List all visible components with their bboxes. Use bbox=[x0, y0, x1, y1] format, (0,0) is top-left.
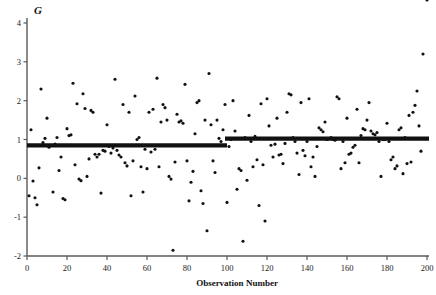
data-point bbox=[93, 153, 96, 156]
data-point bbox=[267, 124, 270, 127]
data-point bbox=[415, 89, 418, 92]
data-point bbox=[245, 179, 248, 182]
data-point bbox=[225, 201, 228, 204]
data-point bbox=[207, 72, 210, 75]
data-point bbox=[411, 111, 414, 114]
data-point bbox=[189, 181, 192, 184]
x-axis-tick-label: 40 bbox=[103, 263, 112, 273]
data-point bbox=[241, 240, 244, 243]
data-point bbox=[413, 104, 416, 107]
data-point bbox=[313, 175, 316, 178]
data-point bbox=[349, 152, 352, 155]
x-axis-tick-label: 0 bbox=[25, 263, 29, 273]
data-point bbox=[257, 204, 260, 207]
data-point bbox=[121, 103, 124, 106]
data-point bbox=[119, 155, 122, 158]
x-axis-tick-label: 140 bbox=[301, 263, 314, 273]
y-axis-tick-label: 0 bbox=[17, 173, 21, 183]
data-point bbox=[231, 99, 234, 102]
data-point bbox=[259, 102, 262, 105]
data-point bbox=[33, 196, 36, 199]
x-axis-tick-label: 160 bbox=[341, 263, 354, 273]
x-axis-tick-label: 80 bbox=[183, 263, 192, 273]
data-point bbox=[407, 114, 410, 117]
data-point bbox=[199, 189, 202, 192]
data-point bbox=[35, 203, 38, 206]
x-axis-tick-label: 200 bbox=[421, 263, 434, 273]
data-point bbox=[345, 117, 348, 120]
data-point bbox=[417, 124, 420, 127]
data-point bbox=[367, 101, 370, 104]
data-point bbox=[55, 136, 58, 139]
data-point bbox=[255, 158, 258, 161]
data-point bbox=[223, 103, 226, 106]
data-point bbox=[295, 152, 298, 155]
data-point bbox=[405, 162, 408, 165]
data-point bbox=[169, 178, 172, 181]
chart-canvas: -2-101234020406080100120140160180200GObs… bbox=[0, 0, 436, 295]
data-point bbox=[191, 170, 194, 173]
data-point bbox=[45, 117, 48, 120]
data-point bbox=[401, 172, 404, 175]
data-point bbox=[279, 153, 282, 156]
data-point bbox=[289, 93, 292, 96]
data-point bbox=[127, 111, 130, 114]
data-point bbox=[69, 133, 72, 136]
data-point bbox=[265, 97, 268, 100]
data-point bbox=[175, 113, 178, 116]
data-point bbox=[159, 120, 162, 123]
data-point bbox=[273, 143, 276, 146]
data-point bbox=[137, 136, 140, 139]
data-point bbox=[363, 128, 366, 131]
data-point bbox=[59, 155, 62, 158]
data-point bbox=[85, 175, 88, 178]
data-point bbox=[393, 167, 396, 170]
data-point bbox=[375, 131, 378, 134]
data-point bbox=[217, 137, 220, 140]
data-point bbox=[181, 122, 184, 125]
data-point bbox=[399, 126, 402, 129]
x-axis-title: Observation Number bbox=[196, 278, 278, 288]
data-point bbox=[379, 175, 382, 178]
data-point bbox=[281, 162, 284, 165]
data-point bbox=[37, 166, 40, 169]
data-point bbox=[301, 149, 304, 152]
data-point bbox=[51, 190, 54, 193]
data-point bbox=[421, 53, 424, 56]
data-point bbox=[83, 107, 86, 110]
data-point bbox=[151, 108, 154, 111]
data-point bbox=[171, 249, 174, 252]
data-point bbox=[155, 77, 158, 80]
data-point bbox=[91, 111, 94, 114]
data-point bbox=[147, 111, 150, 114]
data-point bbox=[115, 149, 118, 152]
y-axis-title: G bbox=[34, 4, 42, 16]
data-point bbox=[95, 155, 98, 158]
data-point bbox=[299, 101, 302, 104]
data-point bbox=[269, 144, 272, 147]
data-point bbox=[355, 108, 358, 111]
data-point bbox=[131, 159, 134, 162]
data-point bbox=[143, 148, 146, 151]
data-point bbox=[141, 190, 144, 193]
data-point bbox=[409, 160, 412, 163]
data-point bbox=[227, 145, 230, 148]
y-axis-tick-label: 2 bbox=[17, 96, 21, 106]
y-axis-tick-label: 3 bbox=[17, 57, 21, 67]
data-point bbox=[183, 83, 186, 86]
data-point bbox=[219, 140, 222, 143]
data-point bbox=[71, 82, 74, 85]
data-point bbox=[145, 167, 148, 170]
data-point bbox=[205, 229, 208, 232]
data-point bbox=[153, 148, 156, 151]
data-point bbox=[343, 161, 346, 164]
x-axis-tick-label: 180 bbox=[381, 263, 394, 273]
data-point bbox=[157, 165, 160, 168]
data-point bbox=[123, 161, 126, 164]
data-point bbox=[275, 117, 278, 120]
data-point bbox=[57, 169, 60, 172]
data-point bbox=[307, 97, 310, 100]
data-point bbox=[303, 154, 306, 157]
data-point bbox=[109, 152, 112, 155]
chart-background bbox=[0, 0, 436, 295]
